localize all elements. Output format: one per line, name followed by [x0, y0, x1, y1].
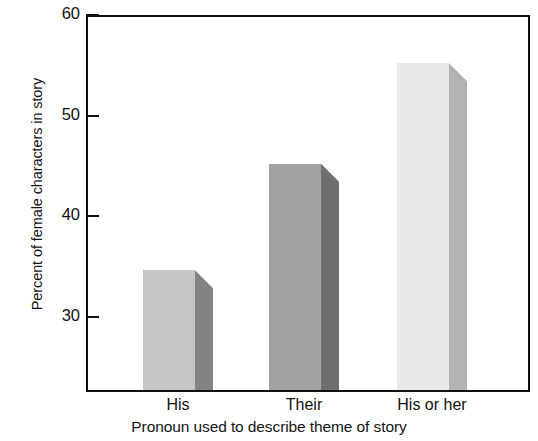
y-axis-tick-label: 30	[42, 307, 80, 325]
bar-front-face	[397, 63, 449, 390]
y-axis-tick-label: 50	[42, 106, 80, 124]
bar-side-face	[449, 63, 467, 390]
y-axis-tick-mark	[86, 115, 99, 117]
bar-side-face	[195, 270, 213, 390]
y-axis-tick-label-text: 50	[46, 106, 80, 123]
y-axis-tick-label: 40	[42, 206, 80, 224]
bar	[397, 63, 467, 390]
x-axis-category-label: His or her	[357, 396, 507, 414]
y-axis-tick-label-text: 40	[46, 206, 80, 223]
y-axis-tick-mark	[86, 14, 99, 16]
y-axis-tick-label-text: 30	[46, 307, 80, 324]
bar	[269, 164, 339, 390]
bar-chart-figure: · · Percent of female characters in stor…	[0, 0, 538, 441]
bar-front-face	[269, 164, 321, 390]
y-axis-tick-mark	[86, 316, 99, 318]
x-axis-title: Pronoun used to describe theme of story	[0, 418, 538, 436]
cropped-title-remnant: · ·	[210, 0, 380, 2]
bar-front-face	[143, 270, 195, 390]
y-axis-tick-label: 60	[42, 5, 80, 23]
y-axis-tick-label-text: 60	[46, 5, 80, 22]
y-axis-tick-mark	[86, 215, 99, 217]
bar-side-face	[321, 164, 339, 390]
bar	[143, 270, 213, 390]
